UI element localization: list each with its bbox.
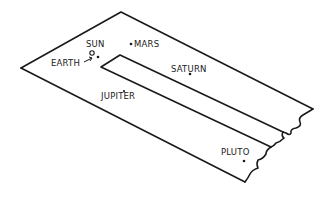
- strip-bottom-edge: [21, 68, 245, 182]
- torn-edge-middle: [271, 132, 284, 147]
- jupiter-marker: JUPITER: [100, 90, 135, 101]
- pluto-label: PLUTO: [221, 147, 250, 157]
- paper-strip: [21, 12, 313, 182]
- sun-marker: SUN: [86, 39, 105, 55]
- sun-label: SUN: [86, 39, 105, 49]
- mars-marker: MARS: [130, 39, 160, 49]
- torn-edge-top-lane: [283, 109, 313, 135]
- saturn-label: SATURN: [171, 64, 207, 74]
- saturn-dot-icon: [189, 73, 192, 76]
- jupiter-label: JUPITER: [100, 91, 135, 101]
- saturn-marker: SATURN: [171, 64, 207, 75]
- mars-label: MARS: [134, 39, 159, 49]
- earth-dot-icon: [97, 56, 100, 59]
- sun-circle-icon: [90, 51, 94, 55]
- mars-dot-icon: [130, 43, 133, 46]
- pluto-marker: PLUTO: [221, 147, 250, 162]
- pluto-dot-icon: [243, 160, 246, 163]
- solar-system-strip-diagram: SUN EARTH MARS SATURN JUPITER PLUTO: [0, 0, 331, 199]
- earth-marker: EARTH: [51, 56, 99, 68]
- earth-label: EARTH: [51, 58, 80, 68]
